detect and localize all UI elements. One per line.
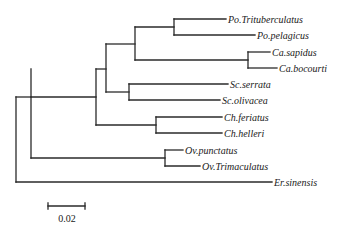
taxon-label-er_sin: Er.sinensis bbox=[273, 177, 317, 188]
scale-bar: 0.02 bbox=[48, 203, 85, 224]
taxon-label-ov_tri: Ov.Trimaculatus bbox=[202, 161, 268, 172]
taxon-label-ca_boc: Ca.bocourti bbox=[279, 63, 327, 74]
taxon-label-po_tri: Po.Trituberculatus bbox=[227, 14, 303, 25]
taxon-label-ca_sap: Ca.sapidus bbox=[272, 47, 317, 58]
taxon-label-ch_fer: Ch.feriatus bbox=[224, 112, 269, 123]
taxon-label-po_pel: Po.pelagicus bbox=[256, 30, 309, 41]
taxon-label-ch_hel: Ch.helleri bbox=[224, 128, 264, 139]
taxon-label-sc_oli: Sc.olivacea bbox=[222, 95, 268, 106]
phylogenetic-tree: Po.TrituberculatusPo.pelagicusCa.sapidus… bbox=[0, 0, 339, 233]
taxon-label-sc_ser: Sc.serrata bbox=[230, 79, 271, 90]
taxon-label-ov_pun: Ov.punctatus bbox=[185, 145, 237, 156]
scale-bar-label: 0.02 bbox=[58, 213, 76, 224]
